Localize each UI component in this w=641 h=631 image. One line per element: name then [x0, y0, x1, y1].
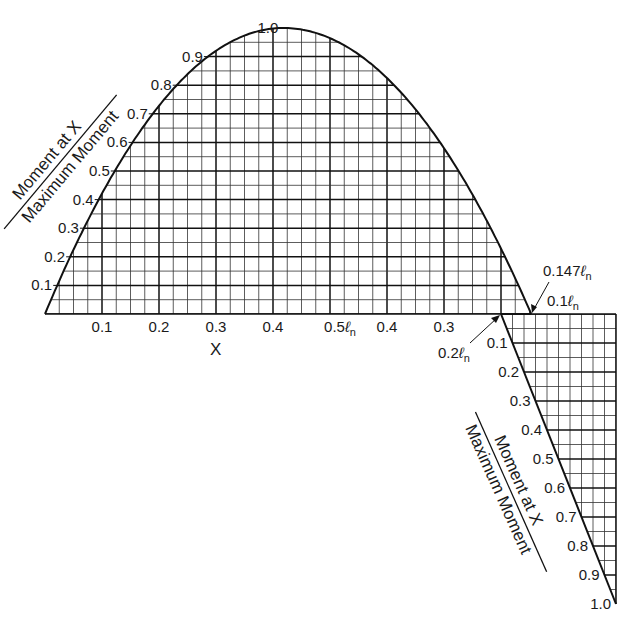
x-tick-label: 0.3 — [434, 318, 455, 335]
neg-y-tick-label: 0.1 — [487, 334, 508, 351]
x-tick-label: 0.3 — [206, 318, 227, 335]
neg-y-tick-label: 0.5 — [533, 450, 554, 467]
x-tick-label: 0.4 — [263, 318, 284, 335]
neg-y-tick-label: 0.7 — [556, 508, 577, 525]
neg-y-tick-label: 0.2 — [498, 363, 519, 380]
x-tick-label: 0.2 — [149, 318, 170, 335]
y-tick-label: 0.3 — [58, 219, 79, 236]
annotation-01ln: 0.1ℓn — [547, 292, 579, 312]
x-axis-label: X — [210, 340, 221, 359]
x-tick-label: 0.4 — [377, 318, 398, 335]
neg-y-tick-label: 0.8 — [567, 537, 588, 554]
x-tick-label: 0.1 — [92, 318, 113, 335]
y-tick-label: 0.5 — [89, 162, 110, 179]
x-tick-label: 0.5ℓn — [324, 318, 356, 338]
neg-y-tick-label: 0.9 — [579, 566, 600, 583]
y-tick-label: 0.1 — [31, 276, 52, 293]
svg-text:0.2ℓn: 0.2ℓn — [438, 344, 470, 364]
y-tick-label: 0.2 — [44, 248, 65, 265]
svg-text:0.147ℓn: 0.147ℓn — [543, 262, 592, 282]
y-tick-label: 0.6 — [107, 133, 128, 150]
y-axis-title: Moment at X Maximum Moment — [0, 81, 132, 241]
y-tick-label: 0.8 — [151, 76, 172, 93]
x-axis-ticks: 0.10.20.30.40.5ℓn0.40.3 — [92, 318, 455, 338]
y-tick-label: 0.9 — [182, 48, 203, 65]
neg-y-tick-label: 0.6 — [544, 479, 565, 496]
neg-y-tick-label: 0.4 — [521, 421, 542, 438]
neg-y-tick-label: 0.3 — [510, 392, 531, 409]
y-tick-label: 0.7 — [127, 105, 148, 122]
y-tick-label: 1.0 — [257, 19, 278, 36]
neg-y-tick-label: 1.0 — [590, 595, 611, 612]
svg-text:0.1ℓn: 0.1ℓn — [547, 292, 579, 312]
moment-diagram: 0.10.20.30.40.50.60.70.80.91.0 0.10.20.3… — [0, 0, 641, 631]
y-tick-label: 0.4 — [73, 191, 94, 208]
